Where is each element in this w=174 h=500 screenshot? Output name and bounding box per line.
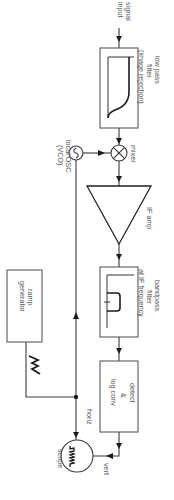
signal-input-label-2: input <box>116 2 125 18</box>
detect-label-1: detect <box>128 383 137 403</box>
scope-block: scope <box>56 440 93 472</box>
arrow-down-icon <box>116 443 122 449</box>
if-amp-label: IF amp <box>145 207 154 229</box>
arrow-left-icon <box>106 453 113 459</box>
bandpass-filter-block: bandpass filter at IF frequency <box>100 267 162 337</box>
arrow-down-icon <box>116 36 122 42</box>
if-amp-block: IF amp <box>87 186 154 244</box>
low-pass-filter-block: low pass filter (image rejection) <box>100 48 162 128</box>
junction-dot <box>74 395 78 399</box>
vert-label: vert <box>102 463 111 475</box>
mixer-x-circle-icon <box>113 147 124 158</box>
sine-oscillator-icon <box>74 148 79 158</box>
mixer-label: mixer <box>129 145 138 163</box>
ramp-label-2: generator <box>18 281 27 312</box>
arrow-down-icon <box>116 176 122 182</box>
bpf-label-3: at IF frequency <box>137 269 146 317</box>
arrow-right-icon <box>98 150 105 156</box>
detect-log-block: detect & log conv <box>100 361 138 432</box>
spectrum-display-icon <box>70 446 74 467</box>
local-osc-block: local OSC (VCO) <box>56 140 83 172</box>
sawtooth-icon <box>29 356 40 374</box>
arrow-up-icon <box>73 312 79 319</box>
arrow-down-icon <box>116 348 122 354</box>
amplifier-triangle-icon <box>87 186 151 244</box>
osc-label-2: (VCO) <box>56 145 65 165</box>
mixer-block: mixer <box>111 145 138 163</box>
horiz-label: horiz <box>85 409 94 425</box>
signal-input: signal input <box>116 2 133 48</box>
detect-label-3: log conv <box>109 379 118 406</box>
lpf-label-3: (image rejection) <box>137 50 146 104</box>
arrow-down-icon <box>116 254 122 260</box>
spectrum-analyzer-block-diagram: signal input low pass filter (image reje… <box>0 0 174 500</box>
scope-label: scope <box>56 449 65 468</box>
ramp-generator-block: ramp generator <box>7 270 42 342</box>
arrow-down-icon <box>73 432 79 438</box>
arrow-down-icon <box>116 138 122 144</box>
detect-label-2: & <box>119 393 128 398</box>
